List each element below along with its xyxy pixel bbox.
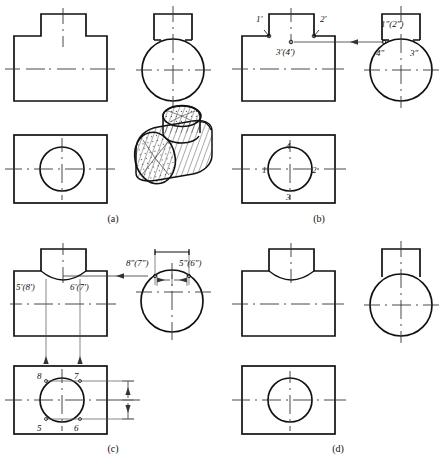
b-label-4s: 4" [376, 48, 385, 58]
b-label-top1: 1 [262, 165, 267, 175]
b-label-top4: 4 [286, 141, 291, 151]
panel-d-caption: (d) [318, 443, 358, 454]
b-label-top2: 2 [312, 165, 317, 175]
b-label-34: 3'(4') [275, 47, 295, 57]
d-side-view [364, 241, 439, 343]
b-label-top3: 3 [285, 192, 291, 202]
c-labels: 5'(8') 6'(7') 8"(7") 5"(6") 8 7 5 6 [16, 258, 202, 433]
b-label-1: 1' [256, 14, 264, 24]
panel-a-caption: (a) [93, 213, 133, 224]
panel-d [224, 235, 447, 445]
a-top-view [5, 135, 115, 203]
b-projection-arrow [350, 39, 358, 45]
b-label-12s: 1"(2") [381, 19, 404, 29]
panel-b-caption: (b) [299, 213, 339, 224]
panel-c-caption: (c) [93, 443, 133, 454]
a-pictorial-view [130, 106, 212, 188]
c-label-56: 5"(6") [179, 258, 202, 268]
b-label-3s: 3" [409, 48, 419, 58]
d-intersection-curve [269, 271, 314, 280]
figure-root: (a) [0, 0, 447, 469]
c-label-top5: 5 [37, 423, 42, 433]
panel-b: 1' 2' 3'(4') 1"(2") 4" 3" 4 1 2 3 [224, 0, 447, 214]
d-top-view [232, 366, 346, 434]
d-front-view [232, 243, 344, 336]
c-label-87: 8"(7") [126, 258, 149, 268]
c-label-58: 5'(8') [16, 282, 35, 292]
c-projection-arrow [116, 273, 124, 279]
c-label-top6: 6 [74, 423, 79, 433]
c-label-top8: 8 [37, 371, 42, 381]
panel-a [0, 0, 224, 214]
panel-c: 5'(8') 6'(7') 8"(7") 5"(6") 8 7 5 6 [0, 235, 224, 445]
c-label-67: 6'(7') [70, 282, 89, 292]
c-label-top7: 7 [74, 371, 79, 381]
a-side-view [136, 6, 211, 108]
b-label-2: 2' [320, 14, 328, 24]
b-front-view [232, 8, 384, 101]
a-front-view [5, 8, 115, 101]
c-top-view [5, 366, 140, 434]
c-intersection-curve [41, 271, 86, 280]
